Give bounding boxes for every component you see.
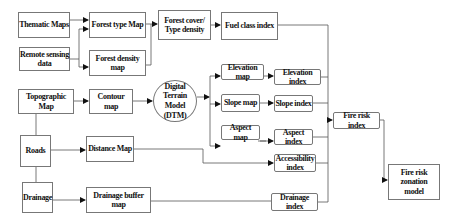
node-remote-sensing: Remote sensing data [19,47,70,71]
label: Elevation index [275,68,320,86]
label: Contour map [90,92,132,110]
label: model [404,187,423,196]
node-distance-map: Distance Map [86,136,134,162]
label: Type density [165,25,205,34]
flowchart-canvas: Thematic Maps Remote sensing data Forest… [0,0,456,223]
node-forest-cover: Forest cover/ Type density [158,10,211,40]
node-fire-risk-index: Fire risk index [333,112,380,129]
label: Fire risk zonation [389,168,439,186]
node-fuel-class-index: Fuel class index [221,12,278,40]
label: Digital Terrain [154,82,196,101]
node-forest-density-map: Forest density map [89,50,146,76]
node-thematic-maps: Thematic Maps [18,12,70,38]
node-elevation-map: Elevation map [221,64,264,80]
label: Aspect index [275,128,312,146]
label: Drainage index [272,193,317,211]
label: Drainage [23,193,52,202]
label: Topographic Map [19,92,73,110]
node-drainage: Drainage [22,182,53,213]
node-accessibility-index: Accessibility index [274,154,316,172]
node-dtm: Digital Terrain Model (DTM) [153,80,197,122]
node-aspect-map: Aspect map [221,125,260,140]
label: index [286,163,303,172]
label: Drainage buffer map [87,191,150,209]
label: Aspect map [222,123,259,141]
label: Thematic Maps [19,20,69,29]
label: Forest type Map [92,20,144,29]
label: Distance Map [88,144,132,153]
node-contour-map: Contour map [89,89,133,114]
node-roads: Roads [20,135,51,167]
node-drainage-index: Drainage index [271,193,318,211]
label: (DTM) [164,111,187,121]
node-slope-map: Slope map [221,94,260,112]
label: Slope index [275,99,311,108]
label: Elevation map [222,63,263,81]
node-drainage-buffer-map: Drainage buffer map [86,187,151,213]
label: Slope map [224,98,257,107]
label: Fuel class index [225,21,274,30]
label: Forest cover/ [164,16,205,25]
label: Fire risk index [334,111,379,129]
label: data [38,59,52,68]
node-aspect-index: Aspect index [274,129,313,145]
label: Accessibility [276,154,315,163]
node-fire-risk-zonation-model: Fire risk zonation model [388,164,440,200]
node-slope-index: Slope index [274,95,313,112]
label: Forest density map [90,54,145,72]
label: Roads [26,146,46,155]
label: Remote sensing [20,50,69,59]
node-elevation-index: Elevation index [274,69,321,85]
label: Model [165,101,185,111]
node-topographic-map: Topographic Map [18,89,74,114]
node-forest-type-map: Forest type Map [89,12,146,38]
